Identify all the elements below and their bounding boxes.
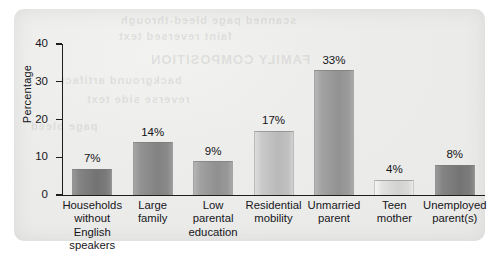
bar-value-label: 33% [314,55,354,67]
bar-value-label: 9% [193,146,233,158]
bar-value-label: 8% [435,149,475,161]
bar-value-label: 7% [72,153,112,165]
bar-value-label: 4% [374,164,414,176]
bar-group: 7% [72,44,112,195]
y-tick-label-10: 10 [8,151,48,163]
y-axis-title: Percentage [21,49,33,139]
bar[interactable] [133,142,173,195]
bar-group: 14% [133,44,173,195]
bar[interactable] [254,131,294,195]
bar-group: 8% [435,44,475,195]
bar[interactable] [72,169,112,195]
bar-group: 33% [314,44,354,195]
category-label: Unemployed parent(s) [419,199,491,226]
y-tick-label-40: 40 [8,38,48,50]
bar-group: 4% [374,44,414,195]
bar-value-label: 14% [133,127,173,139]
bar[interactable] [314,70,354,195]
bar-group: 17% [254,44,294,195]
bar[interactable] [435,165,475,195]
x-axis-line [62,195,485,196]
bar-group: 9% [193,44,233,195]
bar[interactable] [374,180,414,195]
bar[interactable] [193,161,233,195]
bar-value-label: 17% [254,115,294,127]
bars-layer: 7%14%9%17%33%4%8% [62,44,485,195]
y-tick-label-0: 0 [8,189,48,201]
